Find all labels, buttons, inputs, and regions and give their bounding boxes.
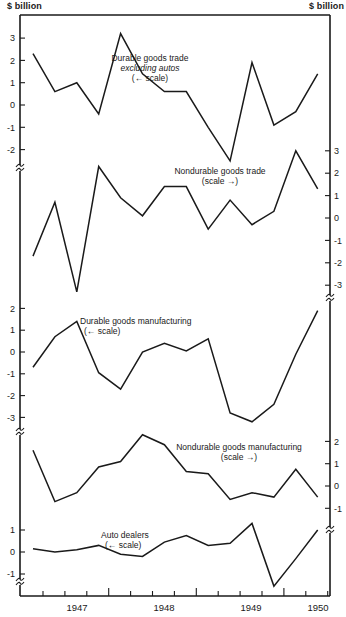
panel-auto-dealers: 10-1Auto dealers(← scale) [7, 523, 318, 586]
series-line [33, 311, 318, 422]
series-annotation: Nondurable goods trade [174, 166, 265, 176]
y-tick-label: 1 [334, 459, 339, 469]
y-tick-label: 3 [10, 33, 15, 43]
x-axis: 1947194819491950 [20, 588, 330, 613]
y-tick-label: 0 [10, 100, 15, 110]
series-annotation: (scale →) [202, 176, 239, 186]
y-tick-label: 1 [10, 325, 15, 335]
y-tick-label: 2 [10, 56, 15, 66]
y-tick-label: -2 [7, 145, 15, 155]
y-tick-label: 2 [334, 437, 339, 447]
y-tick-label: -1 [7, 569, 15, 579]
y-tick-label: -2 [334, 258, 342, 268]
y-tick-label: 0 [10, 347, 15, 357]
series-annotation: (← scale) [84, 326, 121, 336]
axis-break-icon [326, 294, 334, 301]
series-annotation: (← scale) [105, 540, 142, 550]
x-tick-label-1947: 1947 [66, 602, 87, 613]
x-tick-label-1950: 1950 [307, 602, 328, 613]
x-tick-label-1948: 1948 [153, 602, 174, 613]
axis-break-icon [16, 428, 24, 435]
x-tick-label-1949: 1949 [240, 602, 261, 613]
y-tick-label: 2 [334, 168, 339, 178]
y-tick-label: 0 [334, 213, 339, 223]
series-annotation: Durable goods trade [111, 53, 188, 63]
y-tick-label: -1 [334, 236, 342, 246]
axis-break-icon [16, 578, 24, 585]
series-annotation: Durable goods manufacturing [80, 316, 192, 326]
series-annotation: excluding autos [120, 63, 180, 73]
y-tick-label: 0 [334, 481, 339, 491]
axis-break-icon [16, 164, 24, 171]
chart-frame [16, 15, 334, 596]
y-tick-label: 1 [10, 525, 15, 535]
series-annotation: (← scale) [132, 73, 169, 83]
series-annotation: Nondurable goods manufacturing [176, 442, 302, 452]
series-annotation: Auto dealers [101, 530, 149, 540]
y-tick-label: 0 [10, 547, 15, 557]
y-tick-label: -1 [334, 504, 342, 514]
y-tick-label: -1 [7, 123, 15, 133]
y-tick-label: 3 [334, 146, 339, 156]
y-tick-label: -3 [334, 280, 342, 290]
panel-nondurable-goods-manufacturing: 210-1Nondurable goods manufacturing(scal… [33, 435, 342, 514]
y-tick-label: 2 [10, 304, 15, 314]
y-tick-label: 1 [10, 78, 15, 88]
stacked-line-chart: 3210-1-2Durable goods tradeexcluding aut… [0, 0, 346, 617]
series-annotation: (scale →) [221, 452, 258, 462]
panel-durable-goods-trade-excluding-autos: 3210-1-2Durable goods tradeexcluding aut… [7, 33, 318, 161]
y-tick-label: -2 [7, 391, 15, 401]
panel-durable-goods-manufacturing: 210-1-2-3Durable goods manufacturing(← s… [7, 304, 318, 423]
y-tick-label: 1 [334, 191, 339, 201]
series-line [33, 523, 318, 586]
chart-panels: 3210-1-2Durable goods tradeexcluding aut… [7, 33, 342, 586]
axis-break-icon [326, 526, 334, 533]
y-tick-label: -1 [7, 369, 15, 379]
y-tick-label: -3 [7, 413, 15, 423]
panel-nondurable-goods-trade: 3210-1-2-3Nondurable goods trade(scale →… [33, 146, 342, 292]
